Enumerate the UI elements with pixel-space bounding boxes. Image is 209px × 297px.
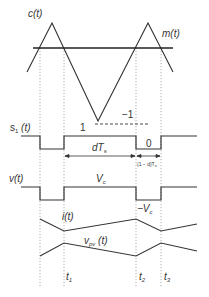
- switch-signal-label: s1 (t): [10, 122, 31, 134]
- t3-label: t3: [164, 271, 171, 283]
- carrier-label: c(t): [28, 8, 42, 19]
- vc-positive-label: Vc: [96, 173, 106, 185]
- t2-label: t2: [139, 271, 146, 283]
- pv-voltage-label: vpv (t): [84, 235, 108, 247]
- duty-label: dTs: [92, 142, 107, 154]
- positive-one-label: 1: [80, 122, 86, 133]
- carrier-waveform: [27, 23, 173, 121]
- off-interval-arrow: [137, 155, 160, 158]
- negative-one-label: −1: [122, 109, 134, 120]
- modulator-label: m(t): [162, 28, 180, 39]
- vc-negative-label: −Vc: [137, 203, 153, 215]
- current-label: i(t): [62, 211, 74, 222]
- switch-signal-waveform: [21, 136, 197, 149]
- pwm-waveform-diagram: c(t) m(t) −1 1 s1 (t) 0 dTs (1 − d)Ts v(…: [0, 0, 209, 297]
- diagram-canvas: c(t) m(t) −1 1 s1 (t) 0 dTs (1 − d)Ts v(…: [0, 0, 209, 297]
- voltage-label: v(t): [9, 173, 23, 184]
- off-interval-label: (1 − d)Ts: [137, 161, 157, 168]
- duty-interval-arrow: [65, 155, 135, 158]
- switch-zero-label: 0: [146, 138, 152, 149]
- voltage-waveform: [21, 187, 197, 200]
- t1-label: t1: [66, 271, 72, 283]
- pv-voltage-waveform: [40, 243, 197, 256]
